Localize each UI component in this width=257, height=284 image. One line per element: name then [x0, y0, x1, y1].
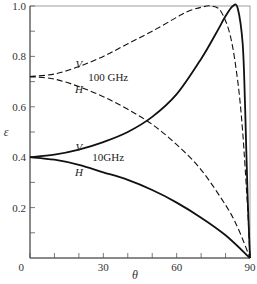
y-axis-label: ε — [4, 125, 9, 139]
data-series — [30, 4, 250, 258]
series-10-ghz-h — [30, 157, 250, 258]
y-tick-label: 0.2 — [12, 202, 26, 214]
annotations: V100 GHzHV10GHzH — [74, 58, 128, 178]
annotation-label: H — [74, 166, 84, 178]
plot-border — [30, 6, 250, 258]
annotation-label: H — [74, 83, 84, 95]
y-tick-label: 0.8 — [12, 50, 26, 62]
y-tick-label: 1.0 — [12, 0, 26, 12]
axis-ticks — [30, 6, 250, 258]
x-tick-label: 60 — [171, 261, 183, 273]
series-100-ghz-v — [30, 6, 250, 258]
y-tick-label: 0.4 — [12, 151, 26, 163]
x-axis-label: θ — [132, 268, 138, 282]
series-10-ghz-v — [30, 4, 250, 258]
emissivity-chart: 30609000.20.40.60.81.0 V100 GHzHV10GHzH … — [0, 0, 257, 284]
x-tick-label: 30 — [98, 261, 110, 273]
annotation-label: V — [76, 58, 84, 70]
plot-frame — [30, 6, 250, 258]
x-tick-label: 90 — [245, 261, 257, 273]
annotation-label: 100 GHz — [88, 71, 128, 83]
annotation-label: 10GHz — [92, 151, 124, 163]
series-100-ghz-h — [30, 77, 250, 258]
origin-label: 0 — [19, 261, 25, 273]
annotation-label: V — [76, 141, 84, 153]
y-tick-label: 0.6 — [12, 101, 26, 113]
